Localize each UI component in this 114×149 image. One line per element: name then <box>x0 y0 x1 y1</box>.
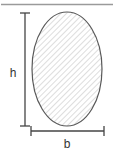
ellipse-dimension-figure: h b <box>0 0 114 149</box>
width-dimension-line <box>31 126 104 136</box>
width-dimension-label: b <box>64 137 71 149</box>
figure-canvas: h b <box>0 0 114 149</box>
height-dimension-line <box>20 13 30 126</box>
ellipse-shape <box>32 12 102 126</box>
height-dimension-label: h <box>10 66 17 80</box>
